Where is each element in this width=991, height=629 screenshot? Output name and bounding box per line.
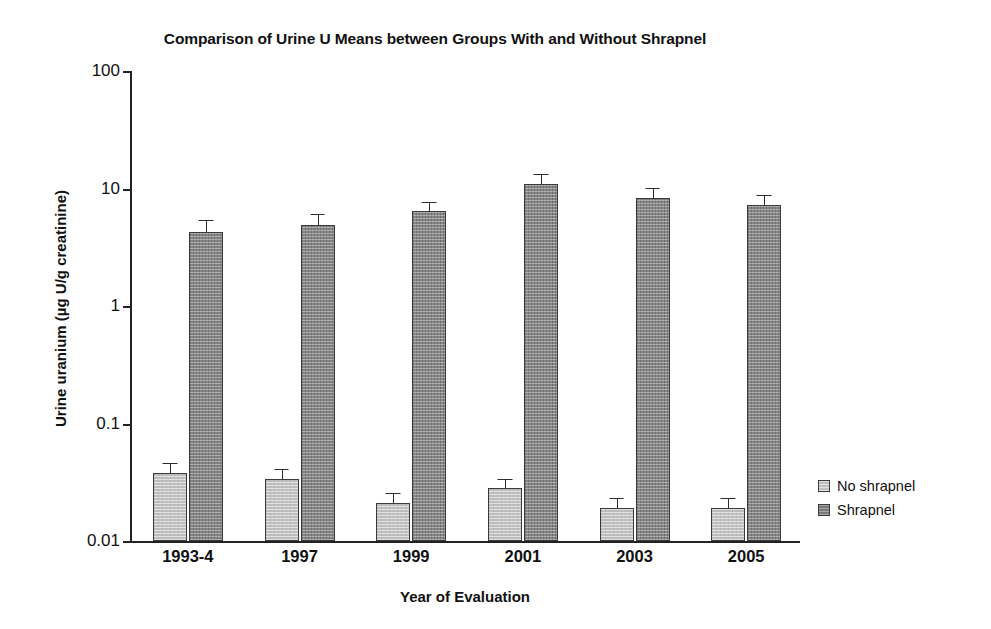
error-bar (393, 494, 394, 503)
error-bar (505, 480, 506, 488)
error-bar (282, 470, 283, 478)
y-axis-tick-label: 10 (101, 179, 120, 199)
error-bar-cap (274, 469, 289, 470)
x-axis-tick-label: 2003 (616, 547, 653, 566)
y-axis-tick-label: 0.1 (96, 414, 120, 434)
bar (711, 508, 745, 541)
error-bar-cap (310, 214, 325, 215)
legend-label: No shrapnel (837, 478, 915, 494)
y-axis-tick (123, 424, 132, 426)
error-bar-cap (386, 493, 401, 494)
error-bar (429, 203, 430, 212)
error-bar-cap (609, 498, 624, 499)
error-bar-cap (162, 463, 177, 464)
legend-swatch (818, 504, 830, 516)
bar (524, 184, 558, 541)
x-axis-tick-label: 1997 (281, 547, 318, 566)
y-axis-title: Urine uranium (µg U/g creatinine) (52, 79, 69, 539)
y-axis-tick (123, 71, 132, 73)
y-axis-tick-label: 100 (92, 61, 120, 81)
legend-label: Shrapnel (837, 502, 895, 518)
bar (189, 232, 223, 541)
y-axis-tick (123, 306, 132, 308)
bar (488, 488, 522, 541)
bar (747, 205, 781, 541)
plot-area: 1001010.10.01 1993-419971999200120032005 (130, 73, 800, 543)
y-axis-tick-label: 0.01 (87, 531, 120, 551)
x-axis-tick-label: 2001 (504, 547, 541, 566)
chart-title: Comparison of Urine U Means between Grou… (0, 30, 870, 48)
error-bar-cap (198, 220, 213, 221)
legend-swatch (818, 480, 830, 492)
bar (301, 225, 335, 541)
x-axis-title: Year of Evaluation (130, 588, 800, 605)
y-axis-tick-label: 1 (111, 296, 120, 316)
error-bar (318, 215, 319, 225)
error-bar-cap (721, 498, 736, 499)
error-bar (653, 189, 654, 198)
error-bar (617, 499, 618, 509)
chart-figure: Comparison of Urine U Means between Grou… (0, 0, 991, 629)
bar (265, 479, 299, 541)
chart-legend: No shrapnelShrapnel (818, 474, 915, 522)
y-axis-tick (123, 189, 132, 191)
error-bar (764, 196, 765, 205)
y-axis-tick (123, 541, 132, 543)
error-bar (728, 499, 729, 509)
legend-item: No shrapnel (818, 474, 915, 498)
x-axis-tick-label: 1999 (393, 547, 430, 566)
error-bar-cap (757, 195, 772, 196)
bar (600, 508, 634, 541)
bar (376, 503, 410, 541)
bar (153, 473, 187, 541)
error-bar (170, 464, 171, 473)
bar (636, 198, 670, 541)
error-bar-cap (645, 188, 660, 189)
error-bar-cap (422, 202, 437, 203)
legend-item: Shrapnel (818, 498, 915, 522)
error-bar-cap (497, 479, 512, 480)
error-bar (206, 221, 207, 232)
x-axis-tick-label: 2005 (728, 547, 765, 566)
bar (412, 211, 446, 541)
error-bar-cap (533, 174, 548, 175)
error-bar (541, 175, 542, 184)
x-axis-tick-label: 1993-4 (162, 547, 213, 566)
